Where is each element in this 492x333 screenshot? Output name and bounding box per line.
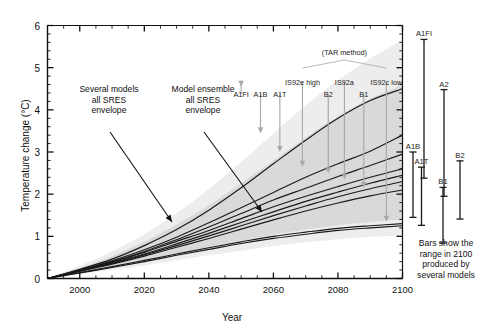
annotation-model-ensemble: Model ensembleall SRESenvelope [157, 84, 249, 116]
range-bar-label-B2: B2 [455, 151, 464, 160]
annotation-arrow-line [110, 132, 172, 222]
x-tick-label: 2040 [198, 284, 219, 295]
scenario-label-IS92e high: IS92e high [285, 78, 320, 87]
x-tick-label: 2080 [327, 284, 348, 295]
y-tick-label: 5 [18, 62, 40, 73]
scenario-label-A1T: A1T [273, 90, 286, 99]
annotation-several-models: Several modelsall SRESenvelope [63, 84, 155, 116]
caption-line: produced by [400, 259, 492, 270]
y-tick-label: 1 [18, 231, 40, 242]
range-bars-caption: Bars show therange in 2100produced bysev… [400, 238, 492, 280]
annotation-line: all SRES [63, 95, 155, 106]
x-tick-label: 2100 [392, 284, 413, 295]
caption-line: range in 2100 [400, 249, 492, 260]
x-tick-label: 2020 [134, 284, 155, 295]
range-bar-label-A1T: A1T [415, 157, 429, 166]
y-tick-label: 2 [18, 189, 40, 200]
y-tick-label: 3 [18, 147, 40, 158]
x-tick-label: 2000 [69, 284, 90, 295]
scenario-label-IS92a: IS92a [335, 78, 354, 87]
y-tick-label: 0 [18, 273, 40, 284]
y-tick-label: 6 [18, 20, 40, 31]
range-bar-label-A1FI: A1FI [416, 29, 432, 38]
x-tick-label: 2060 [263, 284, 284, 295]
range-bar-label-A1B: A1B [406, 142, 420, 151]
scenario-label-B1: B1 [359, 90, 368, 99]
annotation-line: all SRES [157, 95, 249, 106]
x-axis-title: Year [222, 312, 242, 323]
y-tick-label: 4 [18, 104, 40, 115]
tar-method-note: (TAR method) [322, 48, 367, 57]
caption-line: several models [400, 270, 492, 281]
annotation-line: Several models [63, 84, 155, 95]
scenario-label-B2: B2 [324, 90, 333, 99]
annotation-line: envelope [157, 105, 249, 116]
temperature-projection-figure: Temperature change (°C) Year 01234562000… [0, 0, 492, 333]
annotation-line: envelope [63, 105, 155, 116]
range-bar-label-B1: B1 [438, 177, 447, 186]
scenario-label-A1B: A1B [254, 90, 268, 99]
pointer-head-A1B [258, 127, 264, 133]
scenario-label-IS92c low: IS92c low [371, 78, 403, 87]
annotation-line: Model ensemble [157, 84, 249, 95]
caption-line: Bars show the [400, 238, 492, 249]
range-bar-label-A2: A2 [439, 80, 448, 89]
